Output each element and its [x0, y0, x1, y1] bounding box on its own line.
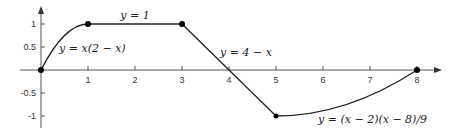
curve-parabola-2 [276, 70, 417, 116]
x-tick-label: 8 [414, 75, 419, 85]
piecewise-function-chart: 1 2 3 4 5 6 7 8 1 0.5 -0.5 -1 y = 1 y = … [0, 0, 458, 135]
x-tick-label: 2 [132, 75, 137, 85]
y-tick-label: 1 [31, 19, 36, 29]
x-tick-label: 7 [367, 75, 372, 85]
y-tick-label: -0.5 [20, 88, 36, 98]
x-tick-label: 1 [85, 75, 90, 85]
y-tick-label: -1 [28, 111, 36, 121]
x-tick-label: 4 [226, 75, 231, 85]
y-tick-label: 0.5 [23, 42, 36, 52]
x-tick-label: 6 [320, 75, 325, 85]
x-ticks [88, 66, 417, 70]
label-parabola-1: y = x(2 − x) [58, 42, 126, 55]
y-axis-arrow-icon [38, 6, 44, 14]
x-axis-arrow-icon [434, 67, 442, 73]
x-tick-label: 3 [179, 75, 184, 85]
x-tick-label: 5 [273, 75, 278, 85]
label-line-decreasing: y = 4 − x [219, 46, 273, 59]
label-parabola-2: y = (x − 2)(x − 8)/9 [317, 113, 427, 126]
label-y-equals-1: y = 1 [119, 9, 149, 22]
